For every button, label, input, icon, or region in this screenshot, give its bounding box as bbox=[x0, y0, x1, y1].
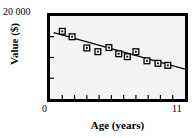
marker-center-dot bbox=[61, 30, 63, 32]
marker-center-dot bbox=[86, 47, 88, 49]
data-point-marker bbox=[106, 45, 112, 51]
plot-area bbox=[50, 16, 185, 99]
data-point-marker bbox=[59, 28, 65, 34]
data-point-marker bbox=[69, 34, 75, 40]
marker-center-dot bbox=[157, 62, 159, 64]
data-point-marker bbox=[95, 49, 101, 55]
data-point-marker bbox=[144, 58, 150, 64]
marker-center-dot bbox=[126, 56, 128, 58]
plot-canvas bbox=[50, 16, 185, 99]
data-point-marker bbox=[133, 49, 139, 55]
marker-center-dot bbox=[108, 47, 110, 49]
marker-center-dot bbox=[135, 51, 137, 53]
plot-frame bbox=[47, 13, 188, 102]
data-point-marker bbox=[124, 54, 130, 60]
y-axis-title: Value ($) bbox=[8, 9, 20, 79]
x-axis-title: Age (years) bbox=[47, 119, 188, 131]
marker-center-dot bbox=[167, 64, 169, 66]
marker-center-dot bbox=[118, 53, 120, 55]
depreciation-scatter-figure: 20 000 Value ($) 0 11 Age (years) bbox=[0, 0, 193, 138]
data-point-marker bbox=[155, 60, 161, 66]
data-point-marker bbox=[165, 62, 171, 68]
data-point-marker bbox=[116, 51, 122, 57]
data-point-marker bbox=[84, 45, 90, 51]
x-axis-max-tick-label: 11 bbox=[172, 103, 182, 114]
x-axis-min-tick-label: 0 bbox=[42, 103, 47, 114]
marker-center-dot bbox=[97, 51, 99, 53]
marker-center-dot bbox=[71, 36, 73, 38]
marker-center-dot bbox=[146, 60, 148, 62]
